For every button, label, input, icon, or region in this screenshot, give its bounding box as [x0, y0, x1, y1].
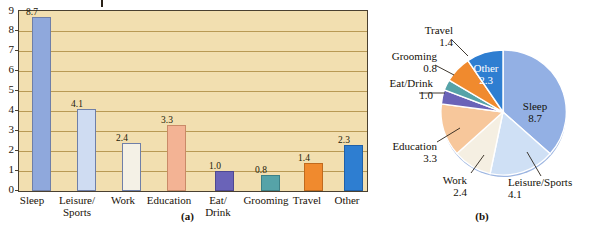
- bar-category-other: Other: [323, 195, 371, 207]
- bar-value-label: 3.3: [152, 115, 182, 125]
- panel-b-caption: (b): [375, 210, 589, 222]
- bar-other: [344, 145, 363, 191]
- y-tick-label: 7: [0, 44, 14, 55]
- bar-value-label: 2.3: [329, 135, 359, 145]
- bar-value-label: 1.4: [289, 153, 319, 163]
- bar-work: [122, 143, 141, 191]
- pie-label-value: 1.4: [381, 36, 453, 48]
- pie-label-name: Sleep: [523, 100, 547, 112]
- gridline: [19, 31, 367, 32]
- pie-label-name: Grooming: [392, 50, 437, 62]
- bar-education: [167, 125, 186, 191]
- bar-value-label: 2.4: [107, 133, 137, 143]
- y-tick-label: 5: [0, 84, 14, 95]
- pie-label-value: 2.3: [463, 74, 509, 86]
- pie-label-value: 3.3: [375, 152, 437, 164]
- y-tick-label: 3: [0, 124, 14, 135]
- bar-leisure: [77, 109, 96, 191]
- gridline: [19, 91, 367, 92]
- leader-line-travel: [452, 40, 468, 56]
- pie-label-value: 1.0: [375, 89, 433, 101]
- textbook-figure: 9 8 7 6 5 4 3 2 1 0: [0, 0, 589, 242]
- bar-chart-panel: 9 8 7 6 5 4 3 2 1 0: [0, 0, 375, 242]
- pie-label-name: Travel: [425, 24, 453, 36]
- y-tick-label: 8: [0, 24, 14, 35]
- pie-label-name: Other: [473, 62, 498, 74]
- y-tick-label: 6: [0, 64, 14, 75]
- pie-label-eat-drink: Eat/Drink 1.0: [375, 77, 433, 101]
- bar-value-label: 8.7: [17, 7, 47, 17]
- pie-label-travel: Travel 1.4: [381, 24, 453, 48]
- panel-a-caption: (a): [0, 210, 375, 222]
- pie-label-value: 8.7: [512, 112, 558, 124]
- bar-value-label: 4.1: [62, 99, 92, 109]
- gridline: [19, 71, 367, 72]
- pie-label-value: 4.1: [508, 188, 589, 200]
- bar-eat-drink: [215, 171, 234, 191]
- pie-label-name: Eat/Drink: [390, 77, 433, 89]
- pie-label-grooming: Grooming 0.8: [375, 50, 437, 74]
- gridline: [19, 111, 367, 112]
- y-tick-label: 0: [0, 184, 14, 195]
- pie-label-work: Work 2.4: [419, 174, 467, 198]
- y-tick-label: 2: [0, 144, 14, 155]
- bar-category-education: Education: [136, 195, 202, 207]
- pie-label-name: Leisure/Sports: [508, 176, 572, 188]
- gridline: [19, 131, 367, 132]
- pie-label-name: Education: [392, 140, 437, 152]
- bar-category-line1: Other: [323, 195, 371, 207]
- pie-label-value: 0.8: [375, 62, 437, 74]
- gridline: [19, 151, 367, 152]
- y-tick-label: 1: [0, 164, 14, 175]
- bar-category-line1: Leisure/: [50, 195, 104, 207]
- pie-label-sleep: Sleep 8.7: [512, 100, 558, 124]
- pie-label-leisure-sports: Leisure/Sports 4.1: [508, 176, 589, 200]
- bar-grooming: [261, 175, 280, 191]
- bar-category-line1: Sleep: [8, 195, 56, 207]
- pie-label-value: 2.4: [419, 186, 467, 198]
- top-crop-mark: [101, 0, 103, 7]
- y-tick-label: 9: [0, 5, 14, 16]
- pie-label-name: Work: [443, 174, 467, 186]
- bar-value-label: 0.8: [246, 165, 276, 175]
- bar-category-line1: Education: [136, 195, 202, 207]
- y-tick-label: 4: [0, 104, 14, 115]
- bar-value-label: 1.0: [200, 161, 230, 171]
- leader-line-grooming: [435, 65, 454, 75]
- pie-chart-panel: Travel 1.4 Grooming 0.8 Eat/Drink 1.0 Ed…: [375, 0, 589, 242]
- bar-travel: [304, 163, 323, 191]
- bar-category-sleep: Sleep: [8, 195, 56, 207]
- bar-sleep: [32, 17, 51, 191]
- pie-label-other: Other 2.3: [463, 62, 509, 86]
- gridline: [19, 51, 367, 52]
- pie-label-education: Education 3.3: [375, 140, 437, 164]
